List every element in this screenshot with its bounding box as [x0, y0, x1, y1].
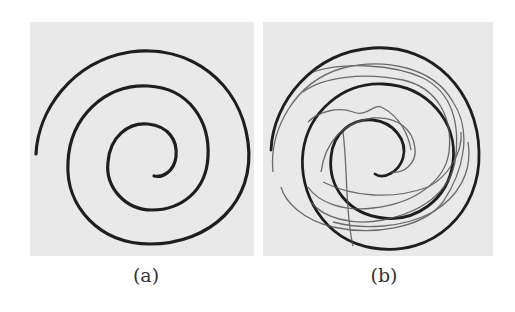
panel-a-caption: (a) — [116, 264, 176, 286]
spiral-trace-figure — [263, 22, 493, 256]
spiral-reference-figure — [30, 22, 254, 256]
panel-b — [263, 22, 493, 256]
panel-a — [30, 22, 254, 256]
panel-b-caption: (b) — [354, 264, 414, 286]
